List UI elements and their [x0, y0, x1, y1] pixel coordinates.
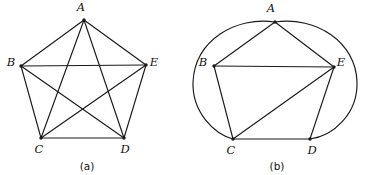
edge-b-BE: [214, 66, 334, 67]
edge-a-AC: [41, 20, 84, 138]
vertex-a-A: [82, 18, 85, 21]
vertex-label-a-A: A: [76, 0, 85, 14]
edge-a-AB: [21, 20, 84, 66]
vertex-label-a-C: C: [35, 142, 44, 156]
vertex-label-b-E: E: [336, 55, 346, 69]
edge-a-BE: [21, 65, 146, 66]
vertex-a-C: [39, 136, 42, 139]
edge-b-EA: [275, 22, 334, 67]
vertex-b-C: [231, 137, 234, 140]
vertex-b-D: [308, 137, 311, 140]
edge-a-BC: [21, 66, 41, 138]
vertex-label-b-D: D: [306, 143, 316, 157]
vertex-label-b-C: C: [227, 143, 236, 157]
caption-panel-a: (a): [80, 160, 95, 172]
vertex-a-E: [144, 63, 147, 66]
panel-a-group: A B C D E (a): [6, 0, 159, 172]
vertex-a-B: [19, 64, 22, 67]
vertex-label-b-B: B: [198, 55, 207, 69]
caption-panel-b: (b): [270, 160, 285, 172]
graph-figure-svg: A B C D E (a) A B C D: [0, 0, 368, 175]
edge-a-BD: [21, 66, 124, 138]
vertex-label-b-A: A: [266, 1, 275, 15]
edge-a-EA: [84, 20, 146, 65]
vertex-a-D: [122, 136, 125, 139]
vertex-label-a-D: D: [119, 142, 129, 156]
vertex-b-E: [332, 65, 335, 68]
vertex-b-B: [212, 64, 215, 67]
vertex-label-a-B: B: [6, 55, 15, 69]
edge-b-DE: [310, 67, 334, 139]
edge-a-DE: [124, 65, 146, 138]
edge-a-CE: [41, 65, 146, 138]
edge-b-BC: [214, 66, 233, 139]
edge-a-AD: [84, 20, 124, 138]
figure-container: A B C D E (a) A B C D: [0, 0, 368, 175]
edge-b-CE: [233, 67, 334, 139]
arc-b-AC-left: [193, 21, 275, 139]
vertex-b-A: [273, 20, 276, 23]
panel-b-group: A B C D E (b): [193, 1, 357, 172]
edge-b-AB: [214, 22, 275, 66]
vertex-label-a-E: E: [149, 55, 159, 69]
